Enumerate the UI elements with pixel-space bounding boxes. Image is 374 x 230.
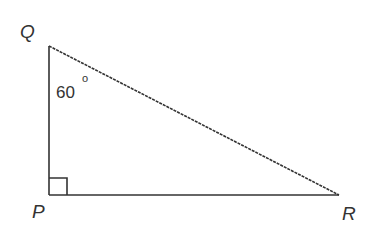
triangle-pqr: [49, 46, 339, 195]
side-qr: [49, 46, 339, 195]
angle-q-value: 60: [56, 83, 75, 102]
triangle-diagram: Q P R 60 o: [0, 0, 374, 230]
right-angle-marker: [49, 178, 67, 195]
vertex-label-r: R: [342, 203, 356, 224]
vertex-label-p: P: [32, 201, 45, 222]
degree-symbol: o: [82, 72, 88, 84]
vertex-label-q: Q: [20, 21, 35, 42]
